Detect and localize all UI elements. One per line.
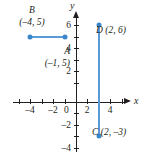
y-tick-minus4	[74, 148, 79, 149]
y-tick-4	[74, 48, 79, 49]
y-tick-label-minus2: –2	[60, 120, 71, 130]
y-tick-3	[74, 60, 79, 61]
x-axis-arrow-icon	[124, 98, 131, 104]
point-d-annotation: D (2, 6)	[96, 24, 126, 36]
y-axis-arrow-icon	[73, 11, 79, 18]
point-a-annotation: A (–1, 5)	[22, 45, 70, 69]
x-tick-label-minus4: –4	[25, 105, 35, 115]
x-tick-minus3	[42, 99, 43, 104]
point-a-coordinates: (–1, 5)	[22, 57, 70, 69]
x-tick-minus5	[19, 99, 20, 104]
origin-label: 0	[64, 105, 69, 115]
segment-ab	[30, 36, 65, 38]
y-tick-6	[74, 25, 79, 26]
point-c-annotation: C (2, –3)	[92, 126, 126, 138]
segment-cd	[98, 25, 100, 136]
x-tick-label-minus2: –2	[48, 105, 58, 115]
point-b-name: B	[8, 4, 56, 16]
y-tick-minus3	[74, 136, 79, 137]
y-tick-label-minus4: –4	[60, 143, 71, 153]
coordinate-plane-figure: x y –4 –2 0 2 4 6 4 2 –2 –4 B (–4, 5) A …	[0, 0, 149, 160]
point-b-annotation: B (–4, 5)	[8, 4, 56, 28]
x-tick-minus1	[65, 99, 66, 104]
x-tick-label-4: 4	[108, 105, 113, 115]
point-b-coordinates: (–4, 5)	[8, 16, 56, 28]
point-a	[62, 34, 67, 39]
y-tick-2	[74, 71, 79, 72]
x-tick-minus2	[53, 99, 54, 104]
y-tick-minus1	[74, 113, 79, 114]
x-tick-label-2: 2	[85, 105, 90, 115]
x-tick-4	[122, 99, 123, 104]
x-tick-minus4	[30, 99, 31, 104]
y-tick-5	[74, 37, 79, 38]
point-b	[28, 34, 33, 39]
y-tick-1	[74, 83, 79, 84]
y-axis-label: y	[70, 0, 74, 11]
x-tick-3	[110, 99, 111, 104]
y-tick-label-6: 6	[60, 20, 71, 30]
x-tick-1	[87, 99, 88, 104]
point-a-name: A	[22, 45, 70, 57]
y-tick-minus2	[74, 125, 79, 126]
x-axis-label: x	[134, 95, 138, 106]
